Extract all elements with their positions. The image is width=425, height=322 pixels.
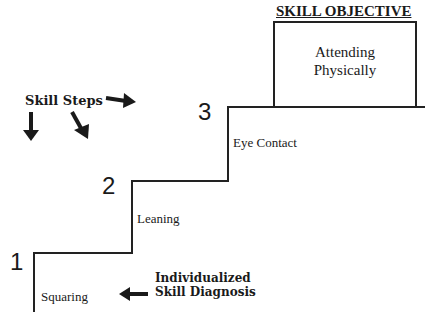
stair-tread-1	[33, 252, 133, 254]
objective-line-2: Physically	[275, 61, 415, 79]
stair-riser-1	[33, 252, 35, 312]
objective-line-1: Attending	[275, 43, 415, 61]
stair-riser-2	[131, 180, 133, 254]
skill-objective-box: Attending Physically	[273, 21, 417, 108]
individualized-skill-diagnosis: Individualized Skill Diagnosis	[155, 272, 256, 300]
diagnosis-line-2: Skill Diagnosis	[155, 286, 256, 300]
step-label-eye-contact: Eye Contact	[233, 136, 297, 149]
skill-steps-label: Skill Steps	[25, 94, 103, 109]
step-label-squaring: Squaring	[41, 290, 88, 303]
arrow-down-right-icon	[68, 110, 94, 140]
arrow-right-icon	[104, 90, 136, 110]
step-label-leaning: Leaning	[137, 212, 180, 225]
skill-objective-text: Attending Physically	[275, 43, 415, 79]
stair-tread-2	[131, 180, 229, 182]
stair-tread-3	[227, 106, 425, 108]
diagnosis-line-1: Individualized	[155, 272, 256, 286]
stair-riser-3	[227, 106, 229, 182]
step-number-3: 3	[198, 100, 211, 124]
step-number-2: 2	[102, 174, 115, 198]
skill-objective-title: SKILL OBJECTIVE	[276, 3, 411, 20]
arrow-down-icon	[22, 110, 40, 142]
step-number-1: 1	[10, 250, 23, 274]
arrow-left-icon	[118, 286, 150, 302]
